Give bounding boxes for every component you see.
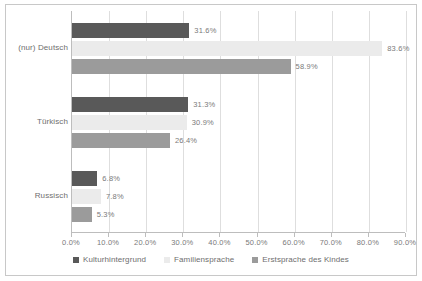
axis-tick: [71, 233, 72, 237]
legend-label: Kulturhintergrund: [83, 255, 146, 264]
category-label: Russisch: [6, 191, 68, 200]
axis-tick: [294, 233, 295, 237]
axis-tick-label: 30.0%: [171, 238, 193, 247]
bar-row[interactable]: 30.9%: [72, 115, 406, 130]
axis-tick-label: 60.0%: [283, 238, 305, 247]
bar-row[interactable]: 6.8%: [72, 171, 406, 186]
bar-value-label: 5.3%: [97, 210, 115, 219]
axis-tick: [108, 233, 109, 237]
axis-tick-label: 40.0%: [208, 238, 230, 247]
bar[interactable]: [72, 41, 382, 56]
axis-tick: [219, 233, 220, 237]
axis-tick: [145, 233, 146, 237]
axis-tick-label: 80.0%: [357, 238, 379, 247]
bar[interactable]: [72, 133, 170, 148]
axis-tick: [257, 233, 258, 237]
legend-item[interactable]: Familiensprache: [164, 255, 234, 264]
category-label: Türkisch: [6, 117, 68, 126]
legend-swatch-icon: [164, 257, 170, 263]
bar-row[interactable]: 83.6%: [72, 41, 406, 56]
bar[interactable]: [72, 97, 188, 112]
bar-value-label: 6.8%: [102, 174, 120, 183]
bar-row[interactable]: 5.3%: [72, 207, 406, 222]
axis-tick: [405, 233, 406, 237]
legend-swatch-icon: [73, 257, 79, 263]
bar[interactable]: [72, 207, 92, 222]
axis-tick-label: 20.0%: [134, 238, 156, 247]
legend-item[interactable]: Erstsprache des Kindes: [252, 255, 349, 264]
bar-value-label: 58.9%: [296, 62, 318, 71]
bar-row[interactable]: 7.8%: [72, 189, 406, 204]
axis-tick-label: 0.0%: [62, 238, 80, 247]
legend-item[interactable]: Kulturhintergrund: [73, 255, 146, 264]
plot-area: 31.6%83.6%58.9%31.3%30.9%26.4%6.8%7.8%5.…: [71, 11, 405, 233]
bar-value-label: 7.8%: [106, 192, 124, 201]
legend-label: Familiensprache: [174, 255, 234, 264]
bar-group: 6.8%7.8%5.3%: [72, 159, 405, 233]
bar-row[interactable]: 31.3%: [72, 97, 406, 112]
bar-value-label: 31.6%: [194, 26, 216, 35]
legend-swatch-icon: [252, 257, 258, 263]
category-label: (nur) Deutsch: [6, 43, 68, 52]
bar[interactable]: [72, 59, 291, 74]
bar[interactable]: [72, 23, 189, 38]
bar-row[interactable]: 58.9%: [72, 59, 406, 74]
axis-tick-label: 50.0%: [245, 238, 267, 247]
axis-tick: [331, 233, 332, 237]
bar-value-label: 31.3%: [193, 100, 215, 109]
bar-row[interactable]: 26.4%: [72, 133, 406, 148]
bar-group: 31.3%30.9%26.4%: [72, 85, 405, 159]
bar-group: 31.6%83.6%58.9%: [72, 11, 405, 85]
chart-frame: 31.6%83.6%58.9%31.3%30.9%26.4%6.8%7.8%5.…: [5, 4, 417, 276]
bar[interactable]: [72, 171, 97, 186]
bar-value-label: 83.6%: [387, 44, 409, 53]
axis-tick-label: 10.0%: [97, 238, 119, 247]
axis-tick: [368, 233, 369, 237]
x-axis: 0.0%10.0%20.0%30.0%40.0%50.0%60.0%70.0%8…: [71, 233, 405, 251]
chart-legend: KulturhintergrundFamilienspracheErstspra…: [6, 255, 416, 264]
axis-tick-label: 70.0%: [320, 238, 342, 247]
bar[interactable]: [72, 115, 187, 130]
axis-tick-label: 90.0%: [394, 238, 416, 247]
bar-value-label: 30.9%: [192, 118, 214, 127]
axis-tick: [182, 233, 183, 237]
bar[interactable]: [72, 189, 101, 204]
bar-row[interactable]: 31.6%: [72, 23, 406, 38]
bar-value-label: 26.4%: [175, 136, 197, 145]
legend-label: Erstsprache des Kindes: [262, 255, 349, 264]
